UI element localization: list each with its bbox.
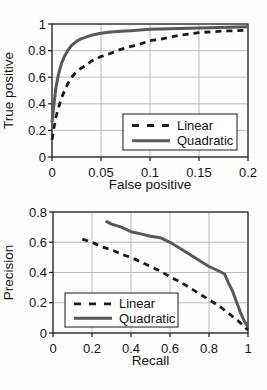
x-axis-label: Recall: [132, 353, 170, 368]
y-tick-label: 0: [40, 326, 47, 341]
precision-recall-chart: 00.20.40.60.8100.20.40.60.8RecallPrecisi…: [0, 195, 267, 390]
x-tick-label: 0: [48, 165, 55, 180]
y-tick-label: 0.4: [29, 265, 47, 280]
y-tick-label: 0.8: [28, 43, 46, 58]
y-tick-label: 0.4: [28, 96, 46, 111]
y-axis-label: Precision: [1, 245, 16, 301]
y-tick-label: 0: [39, 150, 46, 165]
x-tick-label: 1: [244, 341, 251, 356]
precision-recall-chart-canvas: 00.20.40.60.8100.20.40.60.8RecallPrecisi…: [0, 195, 267, 390]
x-tick-label: 0.2: [83, 341, 101, 356]
y-tick-label: 0.2: [28, 123, 46, 138]
x-tick-label: 0.2: [239, 165, 257, 180]
legend: LinearQuadratic: [123, 114, 237, 150]
y-tick-label: 0.6: [28, 70, 46, 85]
y-tick-label: 0.8: [29, 205, 47, 220]
y-tick-label: 1: [39, 17, 46, 32]
legend-quadratic-label: Quadratic: [119, 311, 176, 326]
roc-chart-canvas: 00.050.10.150.200.20.40.60.81False posit…: [0, 0, 267, 195]
y-tick-label: 0.6: [29, 235, 47, 250]
legend-linear-label: Linear: [119, 296, 156, 311]
legend-quadratic-label: Quadratic: [177, 133, 234, 148]
legend: LinearQuadratic: [65, 293, 178, 327]
x-tick-label: 0: [49, 341, 56, 356]
legend-linear-label: Linear: [177, 118, 214, 133]
roc-chart: 00.050.10.150.200.20.40.60.81False posit…: [0, 0, 267, 195]
x-tick-label: 0.8: [200, 341, 218, 356]
y-tick-label: 0.2: [29, 295, 47, 310]
y-axis-label: True positive: [1, 52, 16, 129]
figure-page: 00.050.10.150.200.20.40.60.81False posit…: [0, 0, 267, 390]
x-axis-label: False positive: [109, 177, 192, 192]
